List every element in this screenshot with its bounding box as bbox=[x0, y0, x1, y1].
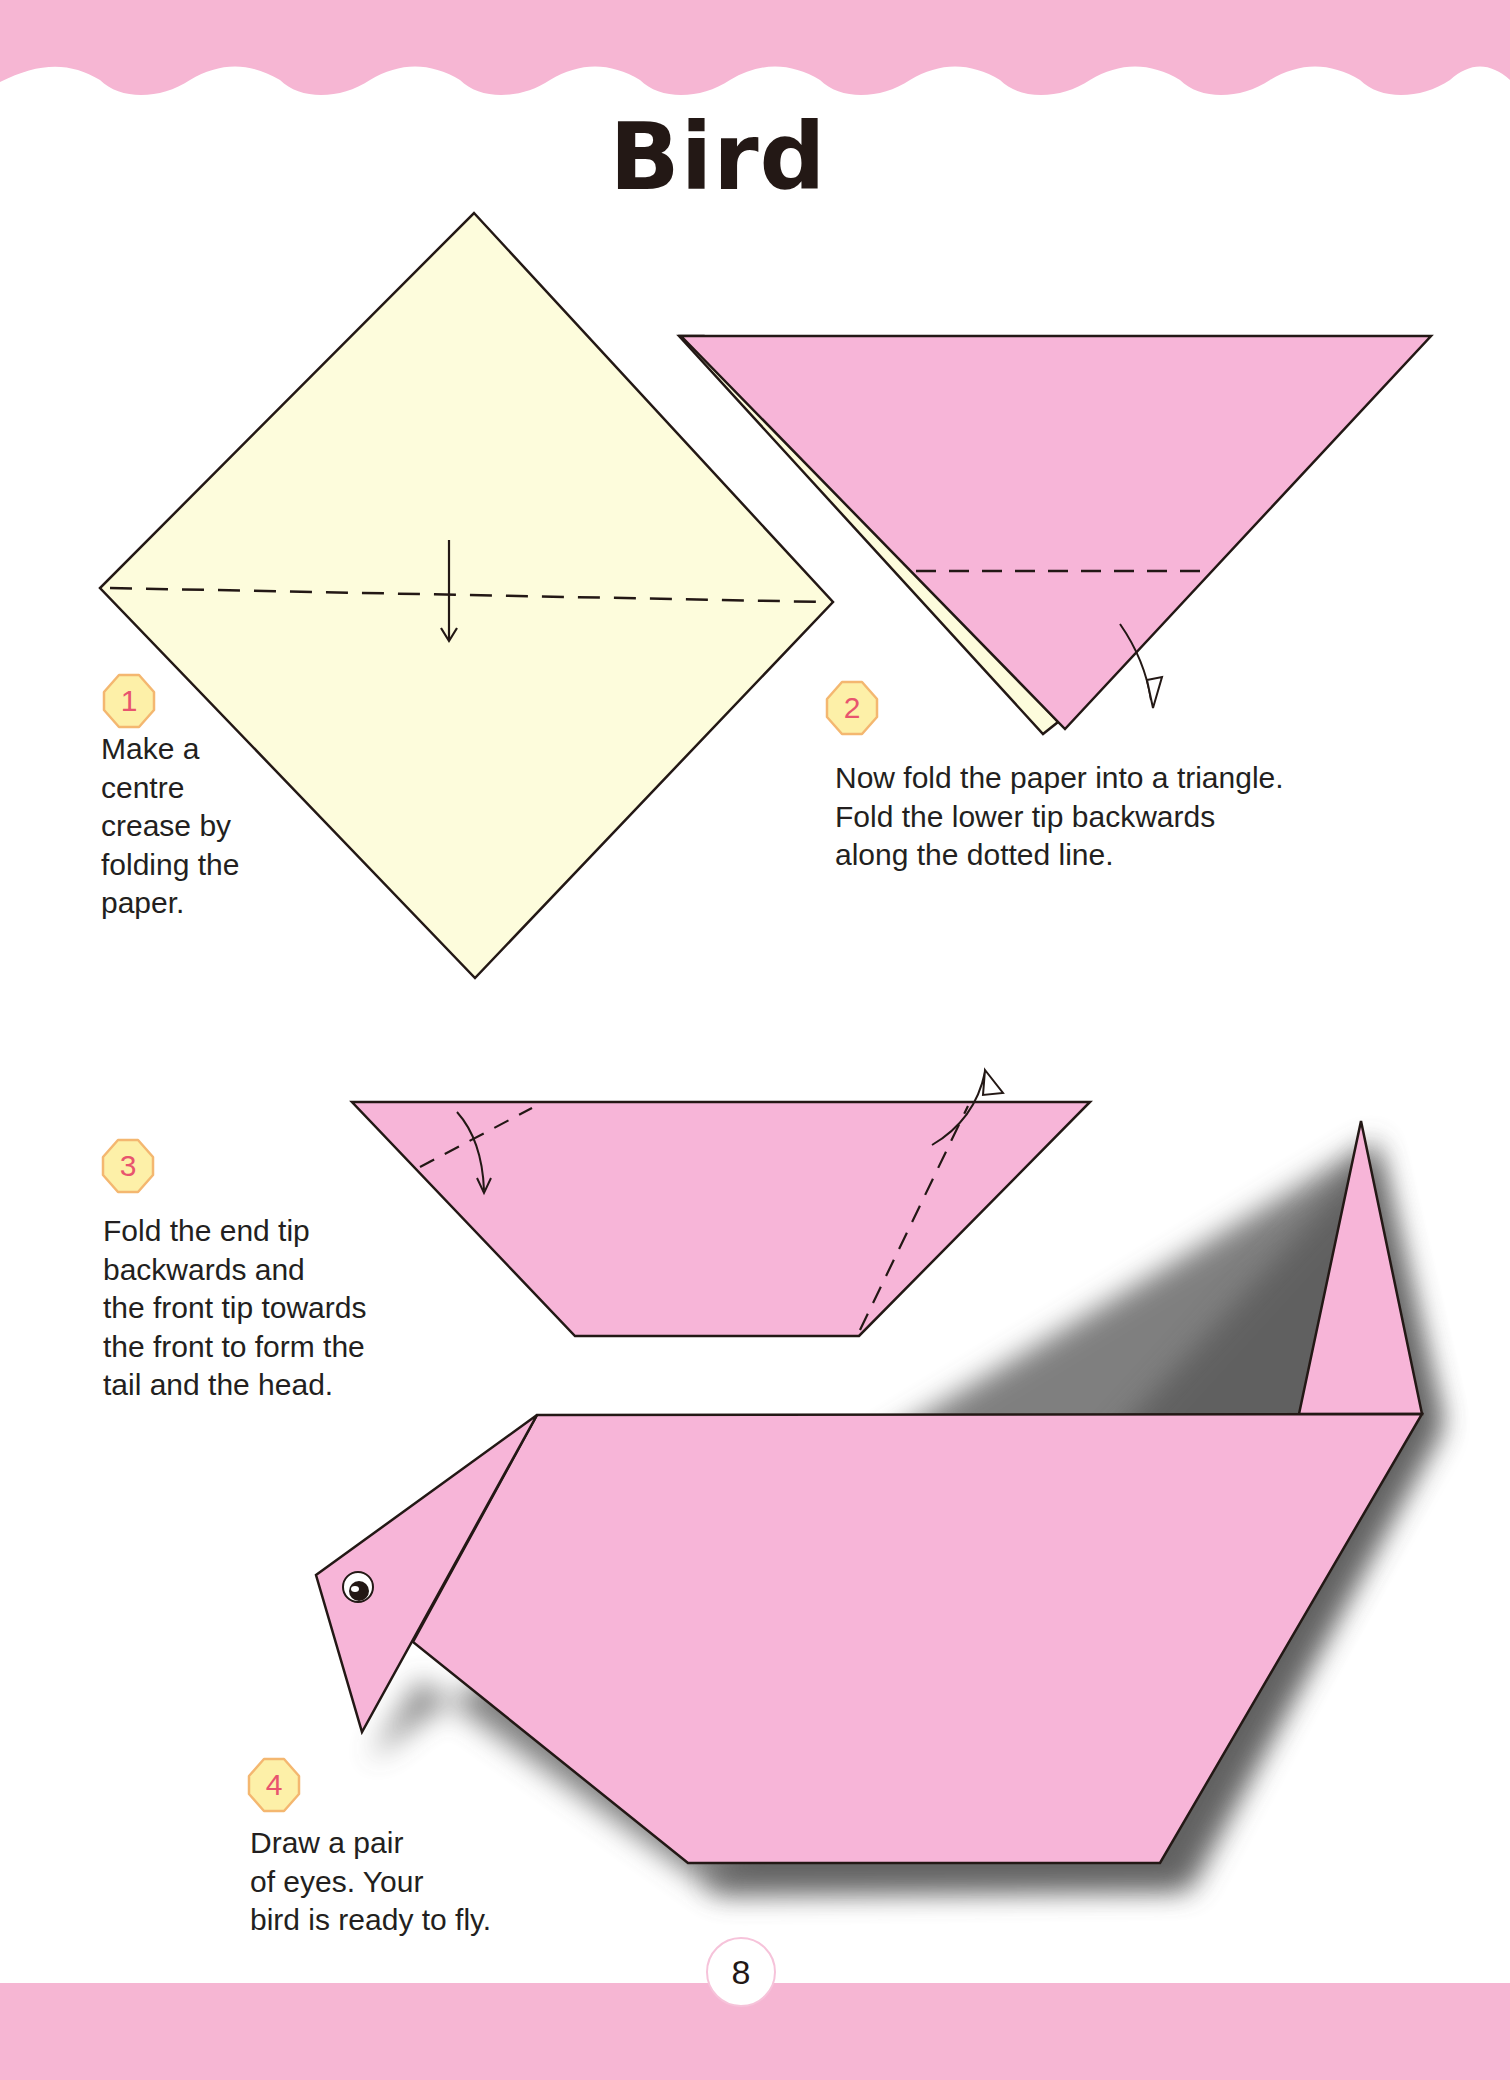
step-number: 2 bbox=[825, 680, 879, 736]
step-number: 3 bbox=[101, 1138, 155, 1194]
step-badge-3: 3 bbox=[101, 1138, 155, 1194]
step-3-text: Fold the end tip backwards and the front… bbox=[103, 1212, 366, 1405]
step-1-text: Make a centre crease by folding the pape… bbox=[101, 730, 239, 923]
step-badge-2: 2 bbox=[825, 680, 879, 736]
step-number: 4 bbox=[247, 1757, 301, 1813]
page-number: 8 bbox=[706, 1937, 776, 2007]
bird-eye-icon bbox=[343, 1572, 373, 1602]
step-badge-1: 1 bbox=[102, 673, 156, 729]
diagrams bbox=[0, 0, 1510, 2080]
step-2-text: Now fold the paper into a triangle. Fold… bbox=[835, 759, 1284, 875]
step-number: 1 bbox=[102, 673, 156, 729]
step-badge-4: 4 bbox=[247, 1757, 301, 1813]
step3-diagram bbox=[352, 1070, 1090, 1336]
step2-diagram bbox=[679, 336, 1431, 734]
bird-body bbox=[413, 1414, 1422, 1863]
step-4-text: Draw a pair of eyes. Your bird is ready … bbox=[250, 1824, 491, 1940]
